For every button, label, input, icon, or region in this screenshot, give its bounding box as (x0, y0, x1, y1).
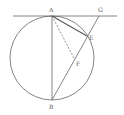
label-a: A (48, 6, 54, 13)
geometry-diagram: A B G E F (0, 0, 124, 115)
label-b: B (49, 103, 54, 110)
label-f: F (76, 60, 80, 67)
segment-bg (52, 16, 99, 100)
label-e: E (89, 34, 93, 41)
label-g: G (98, 6, 103, 13)
